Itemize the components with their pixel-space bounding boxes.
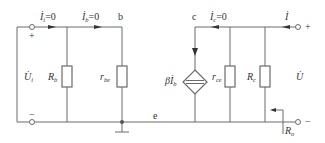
resistor-rce xyxy=(225,66,235,87)
label-u-test: U̇ xyxy=(296,71,304,82)
node-c-label: c xyxy=(192,11,197,22)
minus-left: − xyxy=(29,109,35,120)
resistor-rb xyxy=(62,66,72,87)
input-terminal-plus xyxy=(30,25,35,30)
label-ic: İc=0 xyxy=(209,11,227,23)
arrow-ic-icon xyxy=(211,25,219,29)
arrow-i-icon xyxy=(282,25,290,29)
label-ii: İi=0 xyxy=(39,11,56,23)
arrow-ro-icon xyxy=(270,108,276,112)
label-rce: rce xyxy=(212,71,222,83)
label-rb: Rb xyxy=(47,71,58,83)
label-i-test: İ xyxy=(284,11,289,22)
input-terminal-minus xyxy=(30,120,35,125)
ground-node-dot xyxy=(120,120,124,124)
minus-right: − xyxy=(305,116,311,127)
node-b-label: b xyxy=(118,11,123,22)
source-arrow-icon xyxy=(192,48,198,56)
arrow-ib-icon xyxy=(94,25,102,29)
node-e-label: e xyxy=(153,110,158,121)
plus-left: + xyxy=(29,30,35,41)
label-beta-ib: βİb xyxy=(164,75,177,87)
label-ro: Ro xyxy=(284,125,295,137)
resistor-rc xyxy=(260,66,270,87)
arrow-ii-icon xyxy=(48,25,56,29)
plus-right: + xyxy=(305,21,311,32)
output-terminal-plus xyxy=(296,25,301,30)
dependent-current-source xyxy=(183,48,207,94)
label-ib: İb=0 xyxy=(81,11,99,23)
resistor-rbe xyxy=(117,66,127,87)
label-rc: Rc xyxy=(246,71,256,83)
label-ui: U̇i xyxy=(24,71,33,83)
circuit-diagram: İi=0 İb=0 b c İc=0 İ + − + − U̇i U̇ Rb r… xyxy=(0,0,325,143)
output-terminal-minus xyxy=(296,120,301,125)
label-rbe: rbe xyxy=(100,71,110,83)
